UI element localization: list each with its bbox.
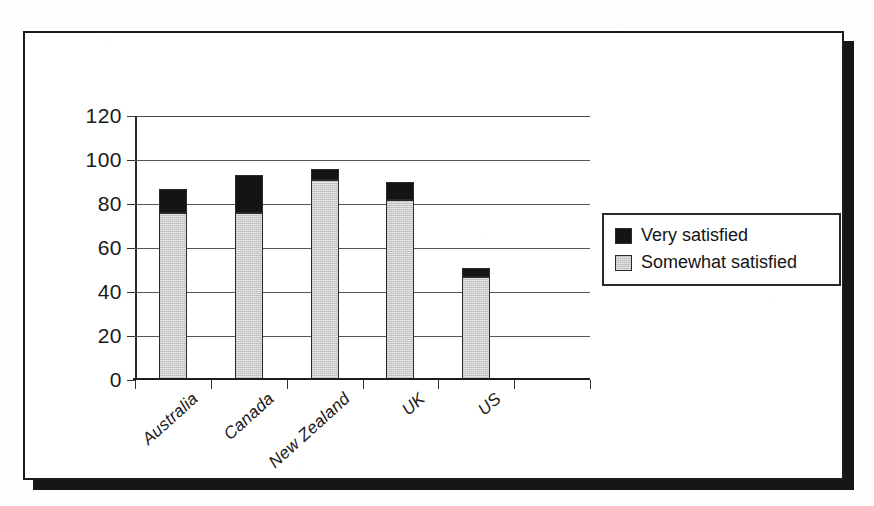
x-axis-tick <box>590 380 591 389</box>
x-axis-tick <box>438 380 439 389</box>
bar-segment-very-satisfied <box>311 169 339 180</box>
y-axis-tick-label: 80 <box>98 192 122 216</box>
x-axis-tick <box>363 380 364 389</box>
x-axis-label-uk: UK <box>399 389 430 420</box>
bar-new-zealand <box>311 169 339 380</box>
bar-segment-somewhat-satisfied <box>235 213 263 380</box>
y-axis-tick <box>127 380 135 381</box>
y-axis-tick <box>127 292 135 293</box>
bar-us <box>462 268 490 380</box>
x-axis-tick <box>287 380 288 389</box>
y-axis-tick <box>127 248 135 249</box>
y-axis-tick-label: 20 <box>98 324 122 348</box>
x-axis-tick <box>135 380 136 389</box>
bar-canada <box>235 175 263 380</box>
x-axis-tick <box>211 380 212 389</box>
legend-label-somewhat-satisfied: Somewhat satisfied <box>641 252 797 273</box>
x-axis-label-australia: Australia <box>138 389 202 449</box>
x-axis-tick <box>514 380 515 389</box>
y-axis-tick <box>127 336 135 337</box>
gridline <box>135 336 590 337</box>
bar-segment-somewhat-satisfied <box>462 277 490 380</box>
bar-australia <box>159 189 187 380</box>
bar-uk <box>386 182 414 380</box>
bar-segment-very-satisfied <box>462 268 490 277</box>
x-axis-label-us: US <box>474 389 505 420</box>
x-axis-baseline <box>133 378 590 380</box>
y-axis-tick <box>127 204 135 205</box>
legend-item-very-satisfied: Very satisfied <box>615 222 828 249</box>
bar-segment-somewhat-satisfied <box>159 213 187 380</box>
legend-label-very-satisfied: Very satisfied <box>641 225 748 246</box>
y-axis-tick <box>127 116 135 117</box>
y-axis-tick-label: 0 <box>110 368 122 392</box>
bar-segment-very-satisfied <box>386 182 414 200</box>
chart-legend: Very satisfied Somewhat satisfied <box>602 213 841 286</box>
scanned-figure-page: 020406080100120 AustraliaCanadaNew Zeala… <box>0 0 874 506</box>
legend-item-somewhat-satisfied: Somewhat satisfied <box>615 249 828 276</box>
y-axis-tick-label: 40 <box>98 280 122 304</box>
plot-area: 020406080100120 AustraliaCanadaNew Zeala… <box>135 116 590 380</box>
x-axis-label-canada: Canada <box>220 389 279 445</box>
bar-segment-somewhat-satisfied <box>386 200 414 380</box>
bar-segment-somewhat-satisfied <box>311 180 339 380</box>
y-axis-tick-label: 100 <box>85 148 122 172</box>
black-square-swatch-icon <box>615 228 632 244</box>
gridline <box>135 204 590 205</box>
bar-segment-very-satisfied <box>159 189 187 213</box>
gridline <box>135 248 590 249</box>
y-axis-tick <box>127 160 135 161</box>
x-axis-label-new-zealand: New Zealand <box>264 389 353 472</box>
bar-segment-very-satisfied <box>235 175 263 212</box>
y-axis-tick-label: 60 <box>98 236 122 260</box>
figure-frame: 020406080100120 AustraliaCanadaNew Zeala… <box>23 31 844 480</box>
gray-square-swatch-icon <box>615 255 632 271</box>
gridline <box>135 292 590 293</box>
gridline <box>135 160 590 161</box>
y-axis-tick-label: 120 <box>85 104 122 128</box>
